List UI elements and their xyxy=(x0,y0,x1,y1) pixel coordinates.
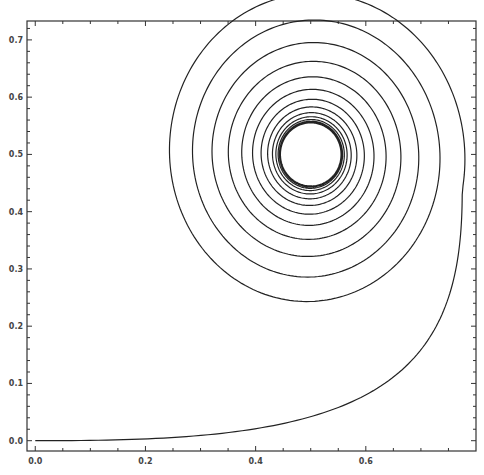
chart: 0.00.20.40.60.00.10.20.30.40.50.60.7 xyxy=(0,0,484,475)
tick-label: 0.2 xyxy=(138,457,152,466)
tick-label: 0.6 xyxy=(9,93,24,102)
tick-label: 0.4 xyxy=(249,457,264,466)
tick-label: 0.1 xyxy=(9,379,24,388)
tick-label: 0.0 xyxy=(9,437,24,446)
tick-label: 0.4 xyxy=(9,208,24,217)
tick-label: 0.7 xyxy=(9,36,23,45)
tick-label: 0.3 xyxy=(9,265,23,274)
tick-label: 0.0 xyxy=(28,457,43,466)
tick-label: 0.5 xyxy=(9,150,24,159)
tick-label: 0.2 xyxy=(9,322,23,331)
tick-label: 0.6 xyxy=(359,457,374,466)
